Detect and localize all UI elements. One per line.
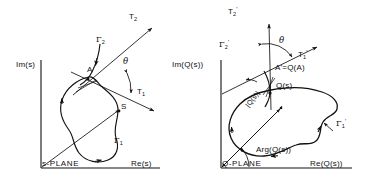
s-plane-point-s-label: S <box>121 103 127 111</box>
q-plane-tangent-t1p-label: T1′ <box>298 51 308 59</box>
q-plane-t2p-prime: ′ <box>236 6 237 12</box>
s-plane-g2-sub: 2 <box>102 39 105 45</box>
s-plane-t2-sub: 2 <box>134 16 137 22</box>
s-plane-g1-base: Γ <box>114 136 120 145</box>
q-plane-point-qs-label: Q(s) <box>276 82 292 90</box>
s-plane-g2-base: Γ <box>96 35 102 44</box>
s-plane-angle-theta-label: θ <box>123 57 128 66</box>
q-plane-point-qs-marker <box>280 107 283 110</box>
figure-conformal-mapping: Im(s) Re(s) s-PLANE A S T2 T1 Γ2 Γ1 θ Im… <box>0 0 368 192</box>
s-plane-axes <box>41 60 160 168</box>
q-plane-axis-y-label: Im(Q(s)) <box>172 61 203 69</box>
q-plane-argument-label: Arg(Q(s)) <box>256 146 291 154</box>
q-plane-tangent-t2p-label: T2′ <box>228 8 238 16</box>
q-plane-contour-gamma1p-label: Γ1′ <box>336 120 346 128</box>
q-plane-g1p-base: Γ <box>336 119 342 128</box>
s-plane-contour-gamma1-label: Γ1 <box>114 137 123 145</box>
s-plane-g1-sub: 1 <box>120 140 123 146</box>
s-plane-axis-y-label: Im(s) <box>16 61 35 69</box>
q-plane-angle-theta-label: θ <box>279 36 284 45</box>
s-plane-tangent-t1-label: T1 <box>137 88 145 96</box>
q-plane-gamma1p-leader <box>324 123 333 131</box>
s-plane-angle-arc-theta <box>127 73 131 93</box>
q-plane-g2p-base: Γ <box>219 40 225 49</box>
s-plane-point-a-marker <box>87 78 90 81</box>
s-plane-point-s-marker <box>118 110 121 113</box>
s-plane-t1-sub: 1 <box>142 91 145 97</box>
s-plane-axis-x-label: Re(s) <box>131 160 152 168</box>
s-plane-tangent-t2 <box>73 28 152 95</box>
q-plane-point-ap-label: A'=Q(A) <box>275 64 305 72</box>
q-plane-axis-x-label: Re(Q(s)) <box>310 160 343 168</box>
q-plane-angle-arc-theta <box>262 44 292 57</box>
q-plane-point-ap-marker <box>268 91 271 94</box>
s-plane-panel <box>41 28 160 168</box>
s-plane-point-a-label: A <box>87 66 93 74</box>
q-plane-name-label: Q-PLANE <box>222 160 261 168</box>
s-plane-name-label: s-PLANE <box>42 160 79 168</box>
s-plane-contour-gamma2-label: Γ2 <box>96 36 105 44</box>
s-plane-tangent-t2-label: T2 <box>129 13 137 21</box>
q-plane-t1p-prime: ′ <box>306 49 307 55</box>
s-plane-tangent-hairs <box>76 80 97 92</box>
q-plane-contour-gamma2p-label: Γ2′ <box>219 41 229 49</box>
